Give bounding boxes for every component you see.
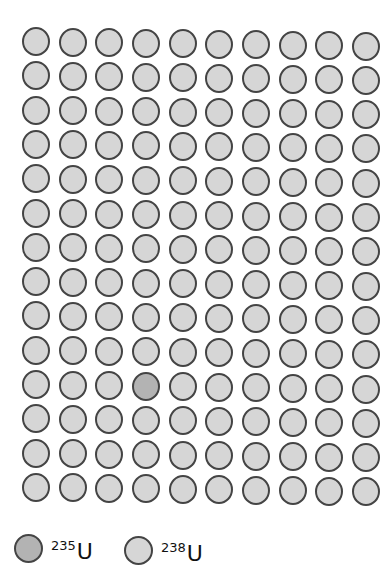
atom-u238 bbox=[169, 166, 197, 195]
atom-u238 bbox=[242, 30, 270, 59]
atom-u238 bbox=[279, 271, 307, 300]
atom-u238 bbox=[205, 30, 233, 59]
atom-u238 bbox=[59, 28, 87, 57]
atom-u238 bbox=[169, 201, 197, 230]
atom-u238 bbox=[132, 440, 160, 469]
atom-u238 bbox=[352, 134, 380, 163]
atom-u238 bbox=[132, 406, 160, 435]
atom-u238 bbox=[315, 237, 343, 266]
atom-u238 bbox=[132, 166, 160, 195]
atom-u238 bbox=[279, 442, 307, 471]
atom-u238 bbox=[315, 477, 343, 506]
atom-u238 bbox=[169, 303, 197, 332]
atom-u238 bbox=[205, 338, 233, 367]
atom-u238 bbox=[205, 201, 233, 230]
atom-u238 bbox=[205, 98, 233, 127]
atom-u238 bbox=[132, 269, 160, 298]
atom-u238 bbox=[205, 132, 233, 161]
atom-u238 bbox=[242, 373, 270, 402]
atom-u238 bbox=[315, 305, 343, 334]
atom-grid bbox=[0, 0, 384, 510]
atom-u238 bbox=[352, 375, 380, 404]
atom-u238 bbox=[59, 130, 87, 159]
atom-u238 bbox=[242, 476, 270, 505]
atom-u238 bbox=[352, 66, 380, 95]
atom-u238 bbox=[59, 439, 87, 468]
atom-u238 bbox=[279, 99, 307, 128]
atom-u238 bbox=[132, 29, 160, 58]
atom-u238 bbox=[279, 476, 307, 505]
atom-u238 bbox=[205, 167, 233, 196]
atom-u238 bbox=[205, 235, 233, 264]
atom-u238 bbox=[315, 168, 343, 197]
atom-u238 bbox=[205, 407, 233, 436]
atom-u238 bbox=[169, 63, 197, 92]
atom-u238 bbox=[352, 443, 380, 472]
atom-u238 bbox=[22, 96, 50, 125]
atom-u238 bbox=[95, 165, 123, 194]
atom-u238 bbox=[22, 404, 50, 433]
atom-u238 bbox=[22, 370, 50, 399]
atom-u238 bbox=[95, 131, 123, 160]
atom-u238 bbox=[315, 374, 343, 403]
atom-u238 bbox=[315, 100, 343, 129]
atom-u238 bbox=[132, 97, 160, 126]
atom-u238 bbox=[95, 268, 123, 297]
atom-u238 bbox=[315, 271, 343, 300]
atom-u238 bbox=[59, 473, 87, 502]
atom-u238 bbox=[95, 97, 123, 126]
atom-u238 bbox=[169, 235, 197, 264]
atom-u238 bbox=[22, 164, 50, 193]
u235-swatch bbox=[14, 534, 43, 563]
atom-u238 bbox=[205, 304, 233, 333]
atom-u238 bbox=[22, 199, 50, 228]
atom-u238 bbox=[352, 477, 380, 506]
atom-u238 bbox=[279, 374, 307, 403]
u238-swatch bbox=[124, 536, 153, 565]
atom-u238 bbox=[279, 65, 307, 94]
atom-u238 bbox=[59, 268, 87, 297]
atom-u238 bbox=[242, 407, 270, 436]
atom-u238 bbox=[205, 373, 233, 402]
atom-u238 bbox=[242, 236, 270, 265]
atom-u238 bbox=[279, 168, 307, 197]
atom-u238 bbox=[315, 31, 343, 60]
atom-u238 bbox=[59, 62, 87, 91]
u235-label: 235U bbox=[51, 535, 93, 563]
atom-u238 bbox=[59, 165, 87, 194]
atom-u238 bbox=[315, 340, 343, 369]
atom-u238 bbox=[352, 203, 380, 232]
atom-u238 bbox=[132, 303, 160, 332]
atom-u238 bbox=[59, 233, 87, 262]
atom-u238 bbox=[242, 133, 270, 162]
atom-u238 bbox=[169, 475, 197, 504]
atom-u238 bbox=[95, 371, 123, 400]
atom-u238 bbox=[22, 301, 50, 330]
atom-u238 bbox=[132, 200, 160, 229]
legend-u235: 235U bbox=[14, 534, 93, 563]
atom-u238 bbox=[169, 338, 197, 367]
atom-u238 bbox=[279, 133, 307, 162]
atom-u238 bbox=[242, 304, 270, 333]
atom-u238 bbox=[315, 203, 343, 232]
atom-u238 bbox=[279, 408, 307, 437]
atom-u238 bbox=[352, 306, 380, 335]
atom-u238 bbox=[279, 236, 307, 265]
atom-u238 bbox=[169, 29, 197, 58]
atom-u238 bbox=[22, 27, 50, 56]
atom-u238 bbox=[242, 64, 270, 93]
atom-u238 bbox=[169, 372, 197, 401]
atom-u238 bbox=[352, 409, 380, 438]
atom-u238 bbox=[169, 98, 197, 127]
atom-u238 bbox=[95, 337, 123, 366]
atom-u238 bbox=[132, 63, 160, 92]
atom-u238 bbox=[95, 62, 123, 91]
atom-u238 bbox=[279, 202, 307, 231]
atom-u238 bbox=[95, 302, 123, 331]
atom-u238 bbox=[132, 474, 160, 503]
atom-u238 bbox=[22, 61, 50, 90]
atom-u238 bbox=[352, 272, 380, 301]
atom-u238 bbox=[22, 473, 50, 502]
atom-u238 bbox=[242, 167, 270, 196]
atom-u235 bbox=[132, 372, 160, 401]
